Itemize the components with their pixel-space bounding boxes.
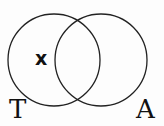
marker-x: x [35, 47, 47, 69]
circle-t [8, 14, 100, 106]
set-label-a: A [136, 94, 155, 124]
circle-a [55, 14, 147, 106]
set-label-t: T [9, 94, 26, 124]
